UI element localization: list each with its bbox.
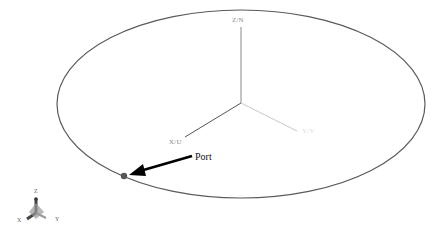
y-axis-label: Y/V [302, 127, 315, 135]
triad-x-label: X [17, 217, 21, 223]
triad-z-label: Z [34, 188, 38, 194]
diagram-canvas [0, 0, 437, 229]
port-label: Port [195, 151, 212, 162]
x-axis-label: X/U [169, 138, 182, 146]
x-axis-line [185, 103, 241, 137]
view-triad-icon [27, 197, 46, 219]
port-arrow-head [129, 164, 146, 176]
z-axis-label: Z/N [232, 16, 244, 24]
y-axis-line [241, 103, 297, 131]
port-arrow-shaft [140, 156, 192, 171]
triad-y-label: Y [55, 216, 59, 222]
port-marker [121, 173, 127, 179]
